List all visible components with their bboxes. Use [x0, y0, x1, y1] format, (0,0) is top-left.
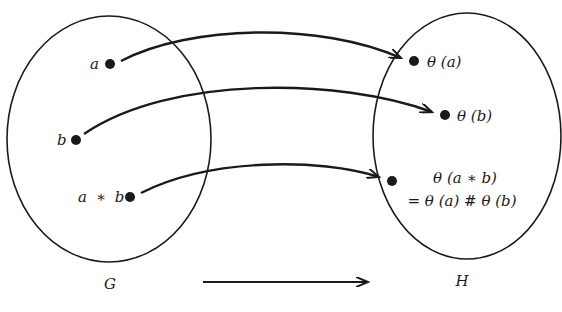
label-ab-right: b	[115, 188, 125, 206]
point-b	[71, 135, 81, 145]
label-a: a	[90, 55, 99, 73]
label-ab-left: a	[78, 188, 87, 206]
point-ab	[125, 192, 135, 202]
point-theta-ab	[387, 176, 397, 186]
label-theta-b: θ (b)	[457, 107, 492, 125]
point-theta-b	[440, 110, 450, 120]
point-a	[105, 59, 115, 69]
set-label-h: H	[454, 272, 469, 290]
mapping-arrow-b	[84, 88, 432, 134]
homomorphism-diagram: a b a ∗ b θ (a) θ (b) θ (a ∗ b) = θ (a) …	[0, 0, 562, 312]
label-ab: a ∗ b	[78, 188, 124, 206]
label-theta-a: θ (a)	[427, 53, 462, 71]
label-b: b	[57, 131, 67, 149]
set-h-ellipse	[373, 13, 561, 259]
label-ab-operator: ∗	[96, 188, 106, 206]
set-g-ellipse	[7, 16, 211, 262]
mapping-arrow-a	[121, 32, 401, 61]
mapping-arrow-ab	[141, 164, 379, 193]
label-theta-ab-equation: = θ (a) # θ (b)	[408, 192, 517, 210]
point-theta-a	[409, 56, 419, 66]
set-label-g: G	[104, 275, 116, 293]
label-theta-ab: θ (a ∗ b)	[433, 169, 497, 187]
